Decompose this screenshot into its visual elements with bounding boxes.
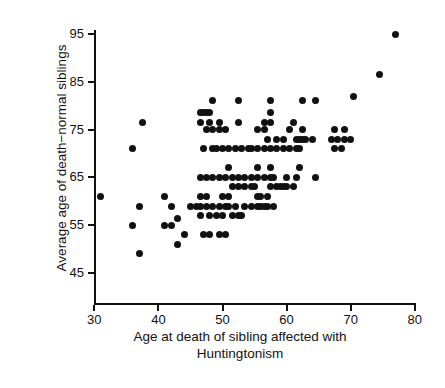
data-point	[290, 183, 297, 190]
data-point	[338, 145, 345, 152]
data-point	[174, 215, 181, 222]
data-point	[216, 231, 223, 238]
data-point	[139, 119, 146, 126]
data-point	[270, 203, 277, 210]
data-point	[347, 136, 354, 143]
x-axis-title: Age at death of sibling affected with Hu…	[70, 328, 410, 362]
data-point	[261, 174, 268, 181]
data-point	[293, 174, 300, 181]
data-point	[232, 203, 239, 210]
x-tick-mark	[286, 305, 288, 311]
data-point	[136, 203, 143, 210]
x-tick-label: 30	[79, 313, 109, 326]
data-point	[264, 193, 271, 200]
x-tick-label: 40	[143, 313, 173, 326]
x-axis-title-line2: Huntingtonism	[70, 345, 410, 362]
data-point	[264, 136, 271, 143]
x-tick-mark	[414, 305, 416, 311]
data-point	[312, 174, 319, 181]
x-tick-label: 60	[272, 313, 302, 326]
data-point	[261, 126, 268, 133]
data-point	[174, 241, 181, 248]
data-point	[219, 193, 226, 200]
data-point	[280, 136, 287, 143]
data-point	[181, 231, 188, 238]
x-tick-mark	[222, 305, 224, 311]
x-tick-label: 50	[208, 313, 238, 326]
x-tick-mark	[157, 305, 159, 311]
data-point	[267, 119, 274, 126]
data-point	[235, 119, 242, 126]
data-point	[392, 31, 399, 38]
data-point	[203, 193, 210, 200]
data-point	[168, 203, 175, 210]
x-tick-mark	[93, 305, 95, 311]
data-point	[129, 222, 136, 229]
x-tick-label: 80	[400, 313, 430, 326]
data-point	[200, 231, 207, 238]
x-axis-title-line1: Age at death of sibling affected with	[70, 328, 410, 345]
data-point	[216, 119, 223, 126]
data-point	[309, 136, 316, 143]
y-axis-title: Average age of death−normal siblings	[54, 28, 70, 288]
data-point	[197, 212, 204, 219]
data-point	[197, 119, 204, 126]
x-tick-label: 70	[336, 313, 366, 326]
data-point	[200, 145, 207, 152]
data-point	[168, 222, 175, 229]
data-point	[290, 119, 297, 126]
data-point	[283, 174, 290, 181]
x-tick-mark	[350, 305, 352, 311]
data-point	[261, 203, 268, 210]
scatter-plot-figure: 455565758595 304050607080 Average age of…	[0, 0, 445, 388]
data-point	[341, 126, 348, 133]
